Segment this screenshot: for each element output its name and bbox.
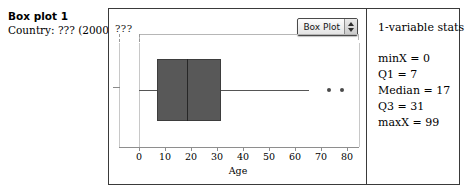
stats-list: minX = 0 Q1 = 7 Median = 17 Q3 = 31 maxX… [378,51,450,131]
outlier-point[interactable] [327,88,331,92]
x-axis-tick-label: 0 [136,151,142,162]
x-axis-tick-label: 70 [315,151,327,162]
page-title: Box plot 1 [8,10,104,23]
stats-row-maxx: maxX = 99 [378,115,450,131]
guide-line-max [359,43,360,147]
caret-up-icon[interactable] [348,22,354,26]
stats-heading: 1-variable stats [378,21,464,34]
series-label: ??? [115,23,133,34]
bracket-tick-min [119,34,120,42]
whisker-cap-left [113,87,120,88]
guide-line-left [119,43,120,147]
outlier-point[interactable] [340,88,344,92]
x-axis-tick-label: 30 [211,151,223,162]
chart-pane[interactable]: ??? Box Plot [109,9,367,184]
x-axis-line [119,147,359,148]
x-axis-tick-label: 40 [237,151,249,162]
box-rect[interactable] [157,59,221,121]
x-axis-tick-label: 80 [341,151,353,162]
x-axis-tick-label: 60 [289,151,301,162]
stats-row-median: Median = 17 [378,83,450,99]
caption-block: Box plot 1 Country: ??? (2000) [8,10,104,37]
stats-row-q1: Q1 = 7 [378,67,450,83]
plot-type-label: Box Plot [298,19,344,35]
x-axis-tick-label: 50 [263,151,275,162]
plot-type-spinner[interactable] [344,19,357,35]
stats-row-minx: minX = 0 [378,51,450,67]
range-selection-bracket[interactable] [139,34,359,40]
plot-window: ??? Box Plot [108,8,460,185]
caret-down-icon[interactable] [348,28,354,32]
caption-subtitle: Country: ??? (2000) [8,23,104,37]
guide-line-zero [139,43,140,147]
x-axis-tick-label: 20 [185,151,197,162]
stats-pane: 1-variable stats minX = 0 Q1 = 7 Median … [368,9,460,184]
x-axis-title: Age [109,165,367,176]
bracket-tick-zero [139,34,140,42]
stats-row-q3: Q3 = 31 [378,99,450,115]
median-line [187,59,188,121]
x-axis-tick-label: 10 [159,151,171,162]
